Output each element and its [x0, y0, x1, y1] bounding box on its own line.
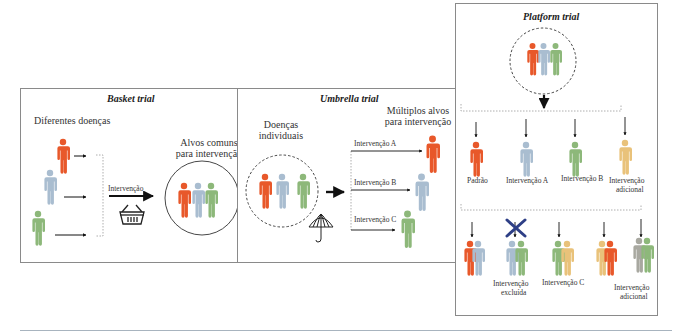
- basket-trial-panel: Basket trial Diferentes doenças Alvos co…: [20, 88, 238, 263]
- umbrella-trial-panel: Umbrella trial Doenças individuais Múlti…: [237, 88, 456, 263]
- umbrella-diagram: [238, 89, 457, 264]
- target-person-b-icon: [416, 174, 430, 211]
- intervention-a-person-icon: [520, 142, 533, 177]
- basket-diagram: [21, 89, 239, 264]
- common-targets-circle: [165, 161, 239, 235]
- standard-person-icon: [470, 142, 483, 177]
- excluded-cross-icon: [507, 220, 525, 236]
- person-orange-icon: [57, 139, 70, 174]
- person-blue-icon: [44, 170, 57, 205]
- platform-diagram: [456, 4, 659, 317]
- umbrella-icon: [309, 214, 333, 242]
- basket-icon: [120, 205, 144, 224]
- target-person-a-icon: [427, 136, 441, 173]
- bottom-divider: [20, 330, 672, 331]
- platform-trial-panel: Platform trial Padrão Intervenção A Inte…: [455, 3, 658, 316]
- target-person-c-icon: [402, 211, 416, 248]
- intervention-b-person-icon: [569, 142, 582, 177]
- person-green-icon: [32, 211, 45, 246]
- additional-person-icon: [619, 140, 632, 175]
